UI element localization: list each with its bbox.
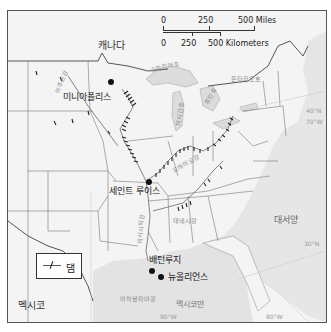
city-dot-baton-rouge (149, 268, 155, 274)
label-atchafalaya: 아차팔라야강 (120, 296, 156, 302)
label-gulf: 멕시코만 (176, 301, 204, 309)
label-atlantic: 대서양 (274, 216, 298, 225)
mississippi-river (120, 89, 150, 261)
scale-miles-500: 500 Miles (238, 16, 276, 25)
city-minneapolis: 미니아폴리스 (63, 93, 111, 102)
scale-miles-250: 250 (198, 16, 213, 25)
scale-bar: 0 250 500 Miles 0 250 500 Kilometers (163, 14, 313, 50)
scale-km-500: 500 Kilometers (208, 39, 269, 48)
city-st-louis: 세인트 루이스 (109, 187, 160, 196)
label-mexico: 멕시코 (18, 301, 45, 311)
scale-tick (209, 26, 210, 30)
city-baton-rouge: 배턴루지 (149, 256, 181, 265)
label-tennessee-river: 테네시강 (173, 218, 197, 224)
city-dot-minneapolis (108, 79, 114, 85)
scale-miles-0: 0 (161, 16, 166, 25)
dam-legend-line (43, 265, 61, 266)
legend-dam-label: 댐 (66, 260, 75, 275)
grid-70w: 70°W (306, 119, 323, 125)
grid-90w: 90°W (160, 314, 177, 320)
scale-tick (220, 32, 221, 36)
city-dot-new-orleans (158, 274, 164, 280)
scale-tick (163, 26, 164, 30)
grid-40n: 40°N (306, 108, 321, 114)
lake-erie (213, 117, 240, 129)
label-lake-ontario: 온타리오호 (231, 76, 261, 82)
scale-km-250: 250 (181, 39, 196, 48)
map-frame: 0 250 500 Miles 0 250 500 Kilometers 캐나다… (7, 10, 327, 323)
city-new-orleans: 뉴올리언스 (168, 273, 208, 282)
lake-ontario (240, 103, 258, 112)
city-dot-st-louis (146, 179, 152, 185)
legend-box: 댐 (36, 253, 82, 279)
scale-tick (254, 26, 255, 30)
scale-km-0: 0 (161, 39, 166, 48)
scale-miles-bar (163, 30, 255, 31)
grid-80w: 80°W (266, 314, 283, 320)
label-canada: 캐나다 (98, 41, 125, 51)
grid-30n: 30°N (304, 241, 319, 247)
scale-tick (192, 32, 193, 36)
